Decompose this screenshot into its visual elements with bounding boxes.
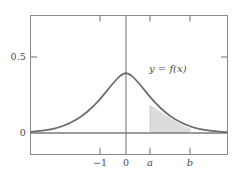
x-tick-label-0: 0	[114, 158, 138, 168]
y-tick-label-0: 0	[1, 128, 26, 138]
x-tick-label-a: a	[138, 158, 162, 168]
x-tick-label-neg1: −1	[88, 158, 112, 168]
curve-equation-label: y = f(x)	[149, 64, 187, 74]
x-tick-label-b: b	[178, 158, 202, 168]
normal-distribution-figure: 0.5 0 −1 0 a b y = f(x)	[0, 0, 242, 176]
plot-area	[0, 0, 242, 176]
y-tick-label-0.5: 0.5	[1, 52, 26, 62]
